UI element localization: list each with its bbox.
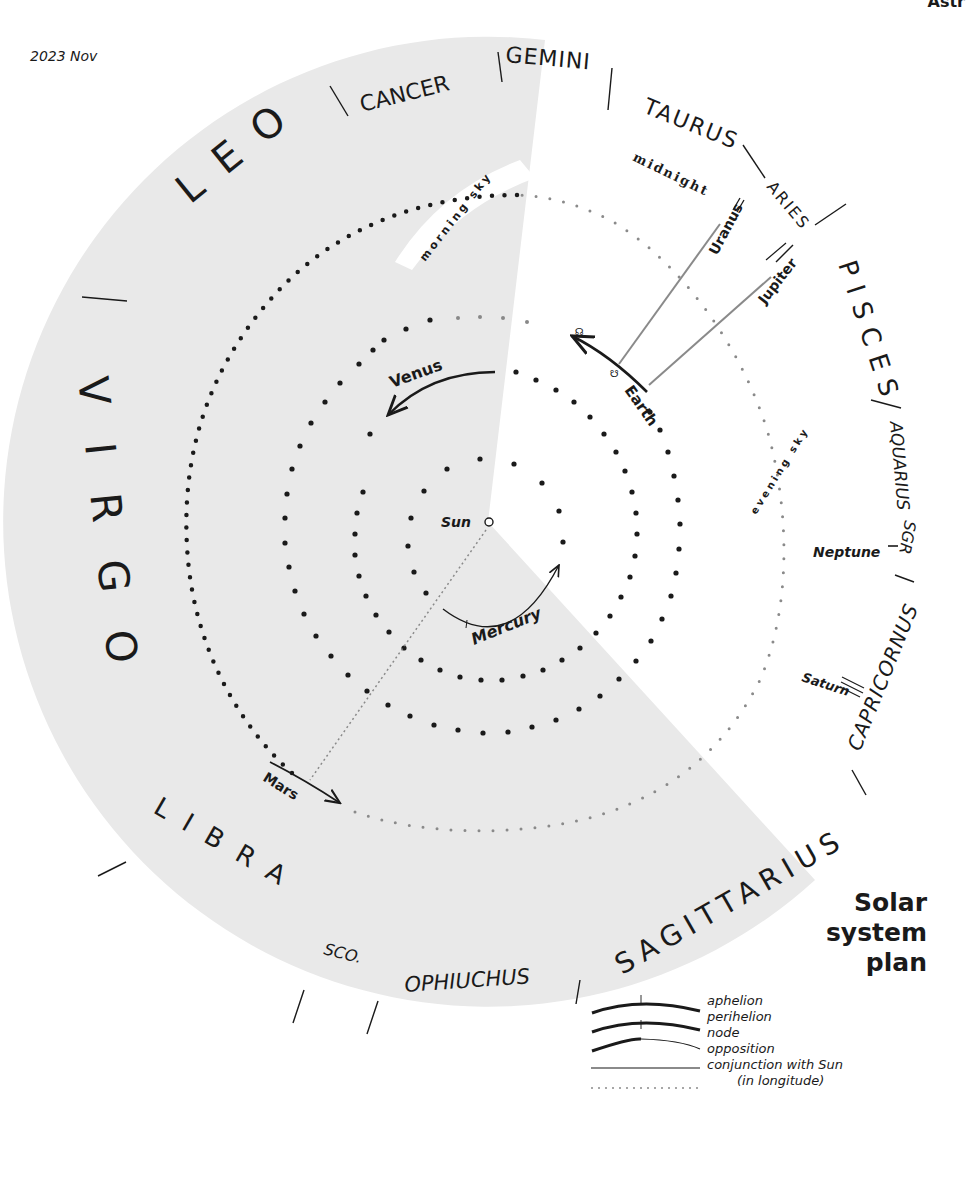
legend-label: perihelion bbox=[707, 1009, 772, 1024]
midnight-label: midnight bbox=[631, 149, 712, 199]
title-line-3: plan bbox=[826, 948, 927, 978]
legend-label: aphelion bbox=[707, 993, 763, 1008]
chart-title: Solar system plan bbox=[826, 888, 927, 978]
legend-label: opposition bbox=[707, 1041, 775, 1056]
solar-system-diagram: Sun Mercury Venus ☋ ☊ Earth Mars Uranus … bbox=[0, 0, 975, 1196]
constellation-aquarius: AQUARIUS bbox=[886, 420, 914, 512]
uranus-label: Uranus bbox=[706, 200, 746, 257]
earth-node-symbol: ☋ bbox=[610, 368, 619, 379]
evening-sky-label: evening sky bbox=[748, 425, 811, 516]
jupiter-opposition-line bbox=[649, 277, 771, 385]
jupiter-tick bbox=[766, 243, 786, 260]
sun-label: Sun bbox=[441, 514, 471, 530]
constellation-sgr: SGR bbox=[895, 519, 920, 555]
constellation-taurus: TAURUS bbox=[639, 93, 742, 154]
legend-label: node bbox=[707, 1025, 739, 1040]
constellation-capricornus: CAPRICORNUS bbox=[842, 600, 923, 754]
legend-label: conjunction with Sun bbox=[707, 1057, 843, 1072]
legend-graphics bbox=[591, 995, 700, 1088]
sun-marker bbox=[485, 518, 493, 526]
legend-sublabel: (in longitude) bbox=[707, 1073, 824, 1088]
earth-node-symbol-2: ☊ bbox=[575, 326, 584, 337]
jupiter-label: Jupiter bbox=[754, 255, 800, 308]
uranus-opposition-line bbox=[619, 224, 720, 364]
saturn-label: Saturn bbox=[800, 670, 852, 699]
neptune-label: Neptune bbox=[813, 544, 880, 560]
earth-label: Earth bbox=[621, 382, 662, 430]
title-line-2: system bbox=[826, 918, 927, 948]
constellation-pisces: PISCES bbox=[832, 257, 907, 410]
constellation-aries: ARIES bbox=[763, 177, 814, 233]
title-line-1: Solar bbox=[826, 888, 927, 918]
